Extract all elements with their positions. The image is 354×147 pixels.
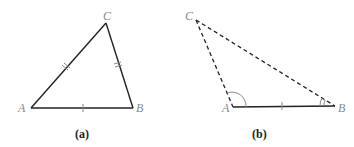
panel-a: A B C (a): [17, 9, 144, 141]
angle-arc-b-b: [320, 98, 322, 106]
panel-b: C A B (b): [185, 9, 346, 141]
vertex-label-c-a: C: [103, 9, 112, 23]
vertex-label-a-a: A: [17, 101, 26, 115]
double-tick-cb-a: [114, 62, 122, 67]
figure-canvas: A B C (a) C A B (b): [0, 0, 354, 147]
vertex-label-b-a: B: [136, 101, 144, 115]
vertex-label-a-b: A: [221, 101, 230, 115]
caption-a: (a): [75, 127, 89, 141]
edge-ac-b: [196, 20, 233, 107]
edge-ac-a: [31, 23, 106, 108]
double-tick-ac-a: [62, 63, 70, 70]
caption-b: (b): [252, 127, 267, 141]
edge-cb-b: [196, 20, 335, 106]
angle-arc-b-inner-b: [324, 100, 325, 106]
vertex-label-c-b: C: [185, 9, 194, 23]
vertex-label-b-b: B: [338, 101, 346, 115]
edge-ab-b: [233, 106, 335, 107]
